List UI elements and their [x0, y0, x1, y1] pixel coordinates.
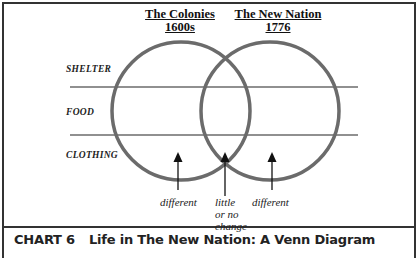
new-nation-subtitle: 1776 [228, 21, 328, 34]
annotation-right: different [252, 196, 289, 208]
colonies-subtitle: 1600s [140, 21, 220, 34]
venn-diagram [0, 0, 420, 228]
row-label-food: FOOD [66, 107, 94, 117]
annotation-left: different [160, 196, 197, 208]
annotation-center-line1: little [215, 196, 247, 208]
arrow-left-icon [174, 152, 183, 190]
annotation-center-line2: or no [215, 208, 247, 220]
set-heading-new-nation: The New Nation 1776 [228, 8, 328, 34]
caption-band: CHART 6Life in The New Nation: A Venn Di… [2, 228, 416, 258]
set-heading-colonies: The Colonies 1600s [140, 8, 220, 34]
row-label-clothing: CLOTHING [66, 150, 118, 160]
row-label-shelter: SHELTER [66, 64, 111, 74]
annotation-center: little or no change [215, 196, 247, 232]
caption-title: Life in The New Nation: A Venn Diagram [89, 232, 375, 247]
arrow-right-icon [268, 152, 277, 190]
caption-number: CHART 6 [14, 232, 75, 247]
chart-caption: CHART 6Life in The New Nation: A Venn Di… [14, 232, 375, 247]
